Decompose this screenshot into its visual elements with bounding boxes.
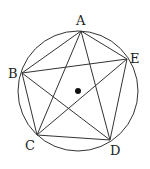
vertex-label-D: D <box>110 143 120 158</box>
segment-BD <box>22 73 110 140</box>
segments <box>22 31 127 140</box>
vertex-label-A: A <box>75 13 86 28</box>
vertex-label-E: E <box>130 51 140 66</box>
segment-CD <box>37 135 110 140</box>
segment-EA <box>81 31 127 59</box>
diagram: ABCDE <box>0 0 150 169</box>
vertex-labels: ABCDE <box>8 13 140 158</box>
vertex-label-C: C <box>25 138 35 153</box>
vertex-label-B: B <box>8 66 18 81</box>
segment-BE <box>22 59 127 73</box>
center-dot <box>75 88 81 94</box>
pentagram-diagram: ABCDE <box>0 0 150 169</box>
